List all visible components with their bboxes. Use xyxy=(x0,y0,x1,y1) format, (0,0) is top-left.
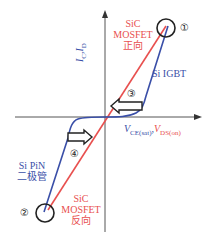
arrow-left-icon xyxy=(111,99,142,113)
y-label-sub2: D xyxy=(80,43,88,48)
marker-2-label: ② xyxy=(20,207,29,218)
marker-1-label: ① xyxy=(180,22,189,33)
y-axis-label: IC,ID xyxy=(74,43,90,62)
label-si-igbt: Si IGBT xyxy=(152,68,186,79)
y-label-i2: I xyxy=(74,48,85,51)
y-label-sep: , xyxy=(74,51,85,54)
si-igbt-text: Si IGBT xyxy=(152,68,186,79)
x-label-sub2: DS(on) xyxy=(160,129,181,137)
y-axis-arrow-icon xyxy=(102,10,108,18)
y-label-i1: I xyxy=(74,59,85,62)
marker-3-label: ③ xyxy=(127,88,136,99)
axes xyxy=(15,10,202,232)
sic-rev-line-2: MOSFET xyxy=(58,204,104,215)
sic-rev-line-3: 反向 xyxy=(58,215,104,226)
label-si-pin-diode: Si PiN 二极管 xyxy=(14,160,50,182)
x-label-sub1: CE(sat) xyxy=(130,129,151,137)
x-axis-arrow-icon xyxy=(194,114,202,120)
y-label-sub1: C xyxy=(80,54,88,59)
sic-fwd-line-3: 正向 xyxy=(110,40,156,51)
arrow-right-icon xyxy=(68,130,92,144)
sic-fwd-line-1: SiC xyxy=(110,18,156,29)
x-axis-label: VCE(sat),VDS(on) xyxy=(124,123,181,139)
label-sic-mosfet-reverse: SiC MOSFET 反向 xyxy=(58,193,104,226)
marker-4-label: ④ xyxy=(70,148,79,159)
label-sic-mosfet-forward: SiC MOSFET 正向 xyxy=(110,18,156,51)
si-pin-line-1: Si PiN xyxy=(14,160,50,171)
sic-rev-line-1: SiC xyxy=(58,193,104,204)
sic-mosfet-curve xyxy=(48,26,166,210)
si-pin-line-2: 二极管 xyxy=(14,171,50,182)
sic-fwd-line-2: MOSFET xyxy=(110,29,156,40)
